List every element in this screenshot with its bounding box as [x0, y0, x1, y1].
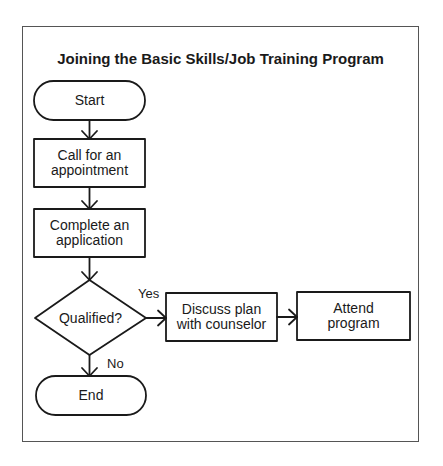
complete-label-line2: application: [56, 233, 123, 248]
end-label: End: [79, 388, 104, 403]
qualified-label: Qualified?: [59, 311, 122, 326]
attend-node: Attend program: [297, 292, 410, 340]
attend-label-line2: program: [327, 316, 379, 331]
call-label-line1: Call for an: [58, 148, 122, 163]
attend-label-line1: Attend: [333, 301, 373, 316]
discuss-node: Discuss plan with counselor: [166, 293, 277, 341]
discuss-label-line1: Discuss plan: [182, 302, 261, 317]
end-node: End: [36, 376, 146, 415]
call-label-line2: appointment: [51, 163, 128, 178]
start-label: Start: [75, 93, 105, 108]
call-node: Call for an appointment: [34, 139, 145, 187]
complete-node: Complete an application: [34, 209, 145, 257]
yes-edge-label: Yes: [138, 286, 159, 301]
complete-label-line1: Complete an: [50, 218, 129, 233]
start-node: Start: [34, 81, 145, 120]
discuss-label-line2: with counselor: [177, 317, 267, 332]
no-edge-label: No: [107, 356, 124, 371]
qualified-node: Qualified?: [35, 300, 146, 336]
